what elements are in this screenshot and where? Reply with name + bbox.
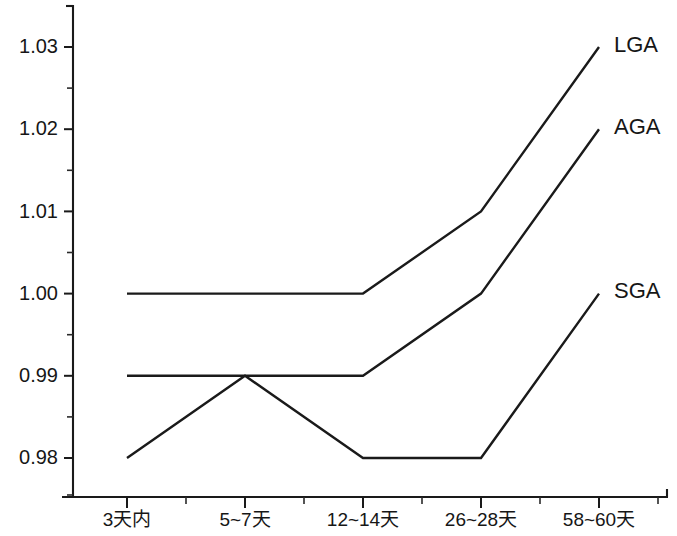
y-axis-tick-labels: 1.031.021.011.000.990.98: [19, 35, 58, 468]
y-tick-label: 1.00: [19, 282, 58, 304]
series-label-aga: AGA: [614, 114, 661, 139]
x-tick-label: 12~14天: [327, 509, 399, 530]
y-tick-label: 0.98: [19, 446, 58, 468]
y-tick-label: 1.01: [19, 200, 58, 222]
y-tick-label: 1.02: [19, 117, 58, 139]
x-axis-ticks: [127, 497, 658, 508]
x-tick-label: 3天内: [103, 509, 152, 530]
series-line-lga: [127, 47, 599, 294]
series-label-group: LGAAGASGA: [614, 32, 661, 304]
x-tick-label: 5~7天: [219, 509, 270, 530]
x-tick-label: 58~60天: [563, 509, 635, 530]
y-tick-label: 0.99: [19, 364, 58, 386]
line-chart-figure: 1.031.021.011.000.990.98 3天内5~7天12~14天26…: [0, 0, 677, 536]
series-line-aga: [127, 129, 599, 376]
series-label-lga: LGA: [614, 32, 658, 57]
x-tick-label: 26~28天: [445, 509, 517, 530]
x-axis-tick-labels: 3天内5~7天12~14天26~28天58~60天: [103, 509, 635, 530]
chart-canvas: 1.031.021.011.000.990.98 3天内5~7天12~14天26…: [0, 0, 677, 536]
y-tick-label: 1.03: [19, 35, 58, 57]
y-axis-ticks: [64, 47, 73, 495]
data-series-group: [127, 47, 599, 458]
series-label-sga: SGA: [614, 278, 661, 303]
